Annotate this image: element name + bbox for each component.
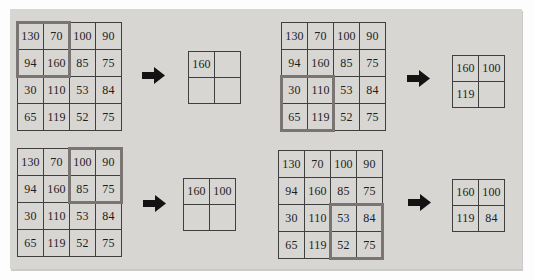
matrix-cell: 65: [282, 104, 307, 130]
matrix-cell: 85: [331, 178, 356, 204]
matrix-cell: 75: [357, 178, 382, 204]
matrix-cell: 119: [453, 82, 478, 107]
matrix-cell: 70: [44, 149, 69, 175]
matrix-cell: 110: [44, 203, 69, 229]
arrow-right-icon: [142, 67, 165, 84]
matrix-cell: 70: [44, 23, 69, 49]
matrix-cell: 65: [18, 104, 43, 130]
arrow-right-icon: [143, 195, 166, 212]
matrix-cell: 85: [70, 176, 95, 202]
matrix-cell: 160: [44, 50, 69, 76]
matrix-cell: 94: [279, 178, 304, 204]
matrix-cell: 119: [305, 232, 330, 258]
matrix-cell: 94: [282, 50, 307, 76]
matrix-cell: 100: [334, 23, 359, 49]
matrix-cell: 130: [18, 149, 43, 175]
matrix-cell: 75: [96, 230, 121, 256]
matrix-cell: 100: [479, 56, 504, 81]
matrix-cell: 160: [189, 52, 214, 77]
matrix-cell: 110: [305, 205, 330, 231]
output-matrix: 160100: [183, 178, 236, 231]
matrix-cell: 100: [479, 180, 504, 205]
matrix-cell: 110: [308, 77, 333, 103]
matrix-cell: 53: [334, 77, 359, 103]
matrix-cell: 160: [453, 56, 478, 81]
matrix-cell: 84: [479, 206, 504, 231]
matrix-cell: 90: [96, 23, 121, 49]
matrix-cell: 84: [96, 77, 121, 103]
matrix-cell: 90: [360, 23, 385, 49]
matrix-cell: 160: [308, 50, 333, 76]
matrix-cell: 85: [70, 50, 95, 76]
matrix-cell: [479, 82, 504, 107]
matrix-cell: 130: [18, 23, 43, 49]
matrix-cell: 30: [282, 77, 307, 103]
matrix-cell: 119: [308, 104, 333, 130]
matrix-cell: 160: [44, 176, 69, 202]
matrix-cell: 75: [96, 176, 121, 202]
matrix-cell: [189, 78, 214, 103]
matrix-cell: 75: [96, 104, 121, 130]
matrix-cell: 90: [96, 149, 121, 175]
matrix-cell: 75: [357, 232, 382, 258]
input-matrix: 1307010090941608575301105384651195275: [281, 22, 386, 131]
matrix-cell: 30: [18, 203, 43, 229]
matrix-cell: 52: [70, 230, 95, 256]
matrix-cell: 84: [96, 203, 121, 229]
matrix-cell: 130: [279, 151, 304, 177]
matrix-cell: 94: [18, 176, 43, 202]
matrix-cell: 84: [357, 205, 382, 231]
output-matrix: 160100119: [452, 55, 505, 108]
matrix-cell: 52: [334, 104, 359, 130]
matrix-cell: 52: [70, 104, 95, 130]
matrix-cell: [215, 78, 240, 103]
matrix-cell: 75: [360, 50, 385, 76]
matrix-cell: 65: [18, 230, 43, 256]
matrix-cell: 160: [453, 180, 478, 205]
matrix-cell: 53: [331, 205, 356, 231]
figure-panel: 1307010090941608575301105384651195275 16…: [10, 9, 522, 269]
matrix-cell: 65: [279, 232, 304, 258]
matrix-cell: 52: [331, 232, 356, 258]
matrix-cell: 160: [184, 179, 209, 204]
matrix-cell: 90: [357, 151, 382, 177]
output-matrix: 160: [188, 51, 241, 104]
matrix-cell: 70: [308, 23, 333, 49]
matrix-cell: 110: [44, 77, 69, 103]
matrix-cell: [184, 205, 209, 230]
matrix-cell: 70: [305, 151, 330, 177]
matrix-cell: 30: [279, 205, 304, 231]
matrix-cell: 94: [18, 50, 43, 76]
output-matrix: 16010011984: [452, 179, 505, 232]
matrix-cell: 119: [44, 104, 69, 130]
input-matrix: 1307010090941608575301105384651195275: [17, 22, 122, 131]
arrow-right-icon: [407, 70, 430, 87]
matrix-cell: 100: [70, 149, 95, 175]
matrix-cell: 160: [305, 178, 330, 204]
matrix-cell: [210, 205, 235, 230]
matrix-cell: 130: [282, 23, 307, 49]
matrix-cell: [215, 52, 240, 77]
input-matrix: 1307010090941608575301105384651195275: [278, 150, 383, 259]
matrix-cell: 85: [334, 50, 359, 76]
matrix-cell: 75: [360, 104, 385, 130]
matrix-cell: 119: [44, 230, 69, 256]
matrix-cell: 53: [70, 77, 95, 103]
matrix-cell: 100: [70, 23, 95, 49]
input-matrix: 1307010090941608575301105384651195275: [17, 148, 122, 257]
matrix-cell: 119: [453, 206, 478, 231]
matrix-cell: 53: [70, 203, 95, 229]
arrow-right-icon: [408, 194, 431, 211]
matrix-cell: 100: [210, 179, 235, 204]
matrix-cell: 30: [18, 77, 43, 103]
matrix-cell: 84: [360, 77, 385, 103]
matrix-cell: 75: [96, 50, 121, 76]
matrix-cell: 100: [331, 151, 356, 177]
max-pooling-figure: 1307010090941608575301105384651195275 16…: [0, 0, 534, 280]
